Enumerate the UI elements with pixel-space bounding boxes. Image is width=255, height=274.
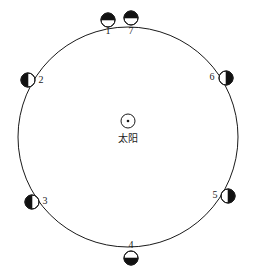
moon-shadow-half [226,71,233,85]
moon-position-7 [124,11,138,25]
sun-center-dot-icon [127,120,130,123]
moon-position-2-label: 2 [31,75,51,85]
moon-position-3-label: 3 [35,196,55,206]
moon-shadow-half [25,195,32,209]
moon-position-7-label: 7 [121,26,141,36]
moon-position-4-label: 4 [121,240,141,250]
moon-position-5-label: 5 [205,190,225,200]
moon-phase-diagram: 1723456 太阳 [0,0,255,274]
moon-shadow-half [21,73,28,87]
moon-shadow-half [124,11,138,18]
moon-shadow-half [228,189,235,203]
sun-label: 太阳 [112,133,144,144]
moon-position-4 [124,251,138,265]
moon-position-1-label: 1 [98,26,118,36]
sun-symbol [121,114,135,128]
moon-shadow-half [124,258,138,265]
moon-position-6-label: 6 [202,72,222,82]
moon-shadow-half [101,13,115,20]
